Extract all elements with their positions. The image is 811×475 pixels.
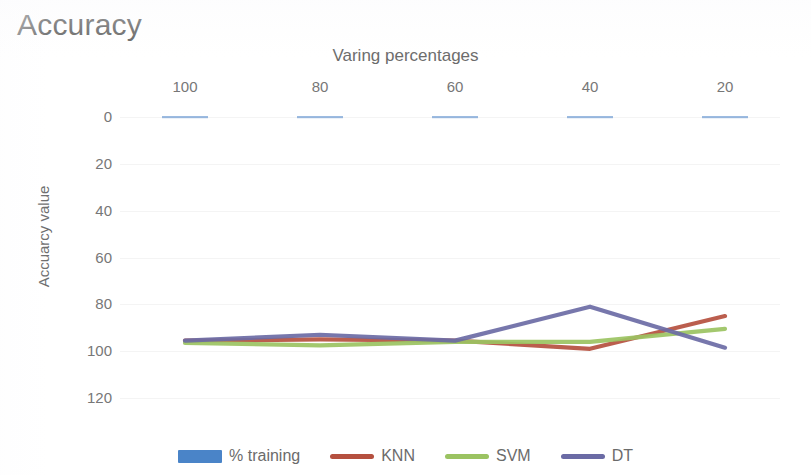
training-series-marker: [297, 116, 343, 118]
training-series-marker: [702, 116, 748, 118]
legend-swatch-icon: [561, 454, 605, 459]
training-series-marker: [162, 116, 208, 118]
legend-label: KNN: [381, 447, 415, 465]
legend-item[interactable]: % training: [178, 447, 300, 465]
chart-page: Accuracy Varing percentages Accuarcy val…: [0, 0, 811, 475]
legend-swatch-icon: [178, 450, 222, 463]
legend-label: SVM: [496, 447, 531, 465]
training-series-marker: [432, 116, 478, 118]
legend-swatch-icon: [330, 454, 374, 459]
legend-label: DT: [612, 447, 633, 465]
training-series-marker: [567, 116, 613, 118]
legend-item[interactable]: SVM: [445, 447, 531, 465]
legend-label: % training: [229, 447, 300, 465]
legend-swatch-icon: [445, 454, 489, 459]
legend-item[interactable]: DT: [561, 447, 633, 465]
legend-item[interactable]: KNN: [330, 447, 415, 465]
chart-plot-lines: [0, 38, 811, 475]
chart-legend: % trainingKNNSVMDT: [0, 447, 811, 465]
chart-container: Varing percentages Accuarcy value 020406…: [0, 38, 811, 475]
